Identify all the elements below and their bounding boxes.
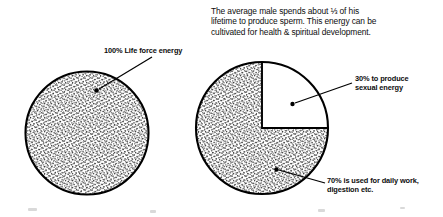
label-sexual-energy: 30% to produce sexual energy bbox=[355, 74, 441, 92]
label-total-life-force-energy: 100% Life force energy bbox=[104, 46, 182, 55]
scan-artifact bbox=[28, 208, 37, 211]
leader-dot-total-energy bbox=[94, 88, 99, 93]
leader-dot-daily-work bbox=[274, 167, 278, 171]
scan-artifact bbox=[318, 209, 325, 212]
leader-dot-sexual-energy bbox=[290, 102, 294, 106]
scan-artifact bbox=[150, 210, 156, 213]
intro-paragraph: The average male spends about ⅓ of his l… bbox=[211, 6, 383, 37]
left-pie-chart bbox=[24, 70, 152, 198]
scan-artifact bbox=[400, 207, 405, 209]
label-daily-work: 70% is used for daily work, digestion et… bbox=[327, 176, 441, 194]
figure-canvas: The average male spends about ⅓ of his l… bbox=[0, 0, 443, 217]
right-pie-chart bbox=[195, 60, 331, 196]
